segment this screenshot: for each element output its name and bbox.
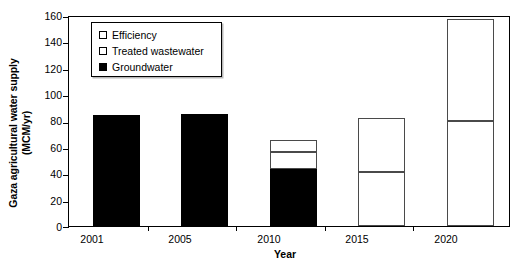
y-tick-label-60: 60 [32, 143, 62, 153]
legend-swatch-efficiency-icon [99, 31, 107, 39]
y-tick-20 [63, 202, 69, 203]
y-tick-60 [63, 149, 69, 150]
x-tick-label-2020: 2020 [416, 233, 476, 245]
y-tick-label-20: 20 [32, 196, 62, 206]
bar-2010 [270, 140, 317, 226]
y-tick-label-140: 140 [32, 37, 62, 47]
x-tick-label-2005: 2005 [150, 233, 210, 245]
legend-label-treated-wastewater: Treated wastewater [112, 45, 204, 57]
bar-2020 [447, 19, 494, 226]
y-tick-label-160: 160 [32, 11, 62, 21]
x-tick-4 [413, 226, 414, 231]
y-axis-label-line1: Gaza agricultural water supply [7, 58, 20, 207]
x-tick-label-2001: 2001 [62, 233, 122, 245]
x-tick-1 [148, 226, 149, 231]
y-tick-120 [63, 70, 69, 71]
y-tick-label-80: 80 [32, 116, 62, 126]
bar-2020-efficiency [447, 19, 494, 121]
legend-swatch-groundwater-icon [99, 63, 107, 71]
y-tick-140 [63, 43, 69, 44]
x-tick-label-2015: 2015 [327, 233, 387, 245]
bar-2020-treated-wastewater [447, 121, 494, 227]
y-tick-label-0: 0 [32, 222, 62, 232]
plot-area: Efficiency Treated wastewater Groundwate… [68, 16, 510, 227]
chart-legend: Efficiency Treated wastewater Groundwate… [91, 22, 222, 77]
bar-2010-treated-wastewater [270, 152, 317, 169]
legend-swatch-treated-wastewater-icon [99, 47, 107, 55]
bar-2005 [181, 114, 228, 226]
bar-2015-efficiency [358, 118, 405, 172]
y-tick-80 [63, 123, 69, 124]
y-tick-100 [63, 96, 69, 97]
chart-figure: Gaza agricultural water supply (MCM/yr) … [0, 0, 522, 266]
bar-2005-groundwater [181, 114, 228, 226]
y-tick-40 [63, 175, 69, 176]
bar-2015 [358, 118, 405, 226]
x-tick-3 [325, 226, 326, 231]
legend-item-efficiency: Efficiency [99, 27, 221, 43]
y-tick-160 [63, 17, 69, 18]
legend-item-treated-wastewater: Treated wastewater [99, 43, 221, 59]
x-tick-label-2010: 2010 [239, 233, 299, 245]
x-axis-label: Year [0, 248, 522, 260]
x-axis-label-text: Year [274, 248, 296, 260]
bar-2010-efficiency [270, 140, 317, 152]
legend-item-groundwater: Groundwater [99, 59, 221, 75]
y-tick-0 [63, 227, 69, 228]
legend-label-efficiency: Efficiency [112, 29, 157, 41]
bar-2015-treated-wastewater [358, 172, 405, 226]
legend-label-groundwater: Groundwater [112, 61, 173, 73]
bar-2001 [93, 115, 140, 226]
bar-2001-groundwater [93, 115, 140, 226]
bar-2010-groundwater [270, 169, 317, 226]
y-tick-label-120: 120 [32, 64, 62, 74]
y-tick-label-40: 40 [32, 169, 62, 179]
y-tick-label-100: 100 [32, 90, 62, 100]
x-tick-2 [236, 226, 237, 231]
